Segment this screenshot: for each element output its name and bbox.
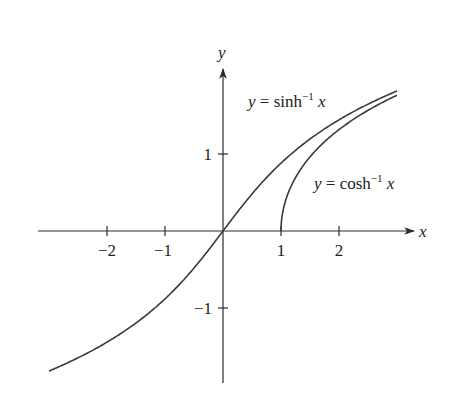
- sinh-label-y: y: [246, 92, 256, 111]
- x-tick-label-1: 1: [277, 241, 286, 260]
- sinh-label-sup: −1: [302, 90, 314, 102]
- x-tick-label-minus-1: −1: [154, 241, 172, 260]
- sinh-label-x: x: [314, 92, 326, 111]
- inverse-hyperbolic-chart: −2 −1 1 2 1 −1 x y y = sinh−1 x y = cosh…: [0, 0, 450, 403]
- cosh-label-eq: = cosh: [322, 174, 372, 193]
- cosh-label-sup: −1: [371, 172, 383, 184]
- y-tick-label-minus-1: −1: [194, 299, 212, 318]
- sinh-inverse-label: y = sinh−1 x: [246, 90, 326, 111]
- cosh-inverse-curve: [281, 95, 397, 231]
- x-tick-label-minus-2: −2: [98, 241, 116, 260]
- y-axis-label: y: [216, 43, 226, 62]
- x-tick-label-2: 2: [335, 241, 344, 260]
- x-axis-label: x: [418, 222, 427, 241]
- sinh-label-eq: = sinh: [256, 92, 303, 111]
- cosh-inverse-label: y = cosh−1 x: [312, 172, 395, 193]
- cosh-label-y: y: [312, 174, 322, 193]
- y-tick-label-1: 1: [204, 145, 213, 164]
- cosh-label-x: x: [383, 174, 395, 193]
